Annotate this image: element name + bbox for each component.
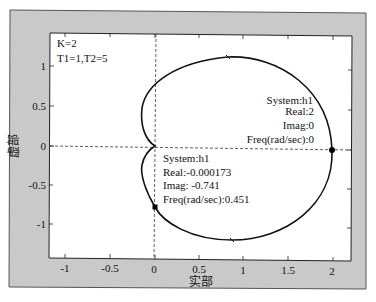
svg-text:System:h1: System:h1	[163, 152, 209, 164]
x-axis-label: 实部	[189, 274, 213, 289]
svg-text:0.5: 0.5	[32, 100, 46, 112]
svg-text:-0.5: -0.5	[101, 262, 119, 274]
svg-text:Freq(rad/sec):0.451: Freq(rad/sec):0.451	[163, 193, 249, 206]
svg-text:Freq(rad/sec):0: Freq(rad/sec):0	[247, 133, 315, 146]
svg-text:Imag:0: Imag:0	[283, 119, 315, 131]
svg-text:Real:-0.000173: Real:-0.000173	[163, 166, 232, 178]
datatip-marker-2[interactable]	[153, 205, 158, 210]
svg-text:-0.5: -0.5	[29, 179, 47, 191]
nyquist-figure: -1 -0.5 0 0.5 1 1.5 2 1 0.5 0 -0.5 -1 实部…	[0, 0, 376, 302]
svg-text:2: 2	[329, 265, 335, 277]
svg-text:1: 1	[240, 264, 246, 276]
svg-text:K=2: K=2	[57, 37, 77, 49]
datatip-marker-1[interactable]	[329, 147, 335, 153]
svg-text:-1: -1	[37, 218, 46, 230]
svg-text:0.5: 0.5	[192, 263, 206, 275]
axes-area	[49, 33, 352, 261]
y-axis-label: 虚部	[6, 134, 21, 158]
svg-text:Imag: -0.741: Imag: -0.741	[163, 179, 220, 191]
svg-text:-1: -1	[60, 262, 69, 274]
svg-text:0: 0	[41, 140, 47, 152]
svg-text:1: 1	[41, 60, 47, 72]
svg-text:1.5: 1.5	[281, 264, 295, 276]
svg-text:T1=1,T2=5: T1=1,T2=5	[57, 52, 108, 64]
svg-text:0: 0	[151, 263, 157, 275]
svg-text:Real:2: Real:2	[285, 105, 314, 117]
